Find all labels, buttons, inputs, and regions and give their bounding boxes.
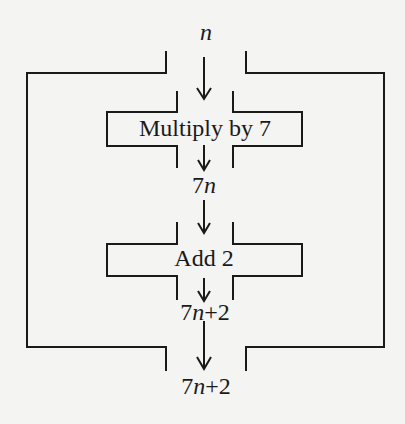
step-multiply-label: Multiply by 7: [139, 116, 271, 140]
arrow-7n: [198, 200, 210, 233]
flowchart-diagram: [0, 0, 405, 424]
arrow-multiply-out: [198, 145, 210, 170]
intermediate-output-7n: 7n: [192, 173, 216, 197]
arrow-final: [197, 321, 211, 369]
final-output-label: 7n+2: [181, 374, 231, 398]
arrow-add-out: [198, 278, 210, 301]
step-add-label: Add 2: [174, 246, 233, 270]
intermediate-output-7n-plus-2: 7n+2: [180, 300, 230, 324]
arrow-input: [197, 57, 211, 99]
input-label: n: [200, 20, 212, 44]
